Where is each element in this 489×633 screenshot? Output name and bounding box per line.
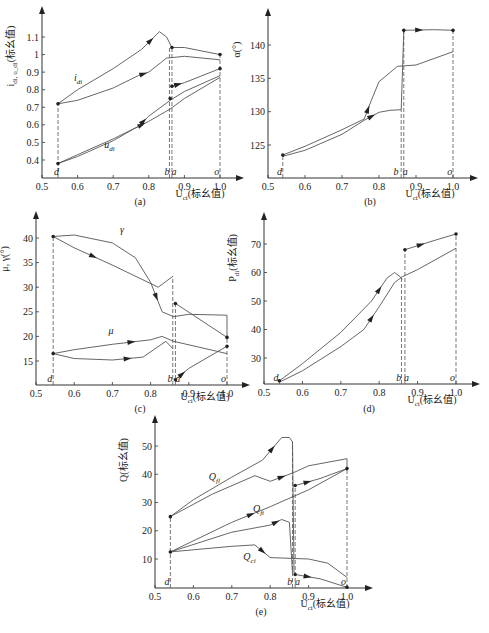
- direction-arrow-icon: [271, 518, 280, 526]
- series-line: [58, 77, 220, 163]
- x-tick-label: 0.5: [262, 181, 275, 192]
- series-line: [53, 237, 173, 288]
- x-tick-label: 0.6: [68, 388, 81, 399]
- operating-point-marker: [169, 515, 173, 519]
- series-line: [404, 30, 453, 31]
- x-tick-label: 0.8: [144, 388, 157, 399]
- y-tick-label: 20: [142, 525, 152, 536]
- x-axis-arrow-icon: [365, 585, 373, 591]
- y-tick-label: 125: [250, 140, 265, 151]
- chart-panel-d: 0.50.60.70.80.91.03040506070Pdi(标幺值)Uci(…: [226, 212, 480, 415]
- operating-point-marker: [51, 235, 55, 239]
- series-line: [279, 248, 456, 382]
- direction-arrow-icon: [415, 27, 423, 32]
- figure-canvas: 0.50.60.70.80.91.00.40.50.60.70.80.911.1…: [0, 0, 489, 633]
- point-label-a: a: [403, 166, 408, 177]
- series-line: [175, 303, 227, 337]
- y-axis-label: Q(标幺值): [117, 438, 130, 482]
- y-tick-label: 0.5: [27, 137, 40, 148]
- chart-panel-e: 0.50.60.70.80.91.01020304050Q(标幺值)Uci(标幺…: [117, 415, 373, 618]
- x-tick-label: 0.5: [30, 388, 43, 399]
- y-tick-label: 135: [250, 73, 265, 84]
- panel-caption: (e): [255, 606, 266, 618]
- operating-point-marker: [281, 153, 285, 157]
- panel-caption: (c): [134, 403, 145, 415]
- operating-point-marker: [56, 102, 60, 106]
- series-line: [175, 346, 227, 380]
- operating-point-marker: [402, 29, 406, 33]
- x-tick-label: 0.7: [336, 181, 349, 192]
- y-tick-label: 0.9: [27, 67, 40, 78]
- x-tick-label: 0.8: [264, 591, 277, 602]
- operating-point-marker: [293, 484, 297, 488]
- direction-arrow-icon: [303, 479, 312, 486]
- panel-caption: (b): [364, 196, 376, 208]
- point-label-o: o: [447, 166, 452, 177]
- x-tick-label: 0.8: [373, 387, 386, 398]
- chart-panel-c: 0.50.60.70.80.91.0152025303540μ, γ(°)Uci…: [0, 211, 250, 415]
- point-label-b: b: [164, 166, 169, 177]
- x-tick-label: 0.7: [106, 388, 119, 399]
- y-tick-label: 30: [142, 497, 152, 508]
- y-tick-label: 40: [23, 233, 33, 244]
- y-tick-label: 140: [250, 40, 265, 51]
- y-axis-arrow-icon: [152, 415, 158, 423]
- panel-caption: (d): [363, 403, 375, 415]
- x-axis-arrow-icon: [236, 175, 244, 181]
- series-line: [283, 52, 453, 155]
- y-axis-arrow-icon: [39, 6, 45, 14]
- x-tick-label: 0.6: [299, 181, 312, 192]
- series-line: [53, 336, 227, 353]
- direction-arrow-icon: [174, 81, 183, 88]
- point-label-d: d: [54, 166, 60, 177]
- chart-panel-a: 0.50.60.70.80.91.00.40.50.60.70.80.911.1…: [4, 6, 244, 208]
- y-tick-label: 40: [142, 469, 152, 480]
- y-tick-label: 10: [142, 554, 152, 565]
- series-annotation: Qci: [243, 551, 255, 565]
- operating-point-marker: [174, 302, 178, 306]
- y-tick-label: 0.6: [27, 119, 40, 130]
- operating-point-marker: [51, 352, 55, 356]
- point-label-a: a: [175, 373, 180, 384]
- point-label-a: a: [295, 576, 300, 587]
- operating-point-marker: [454, 232, 458, 236]
- direction-arrow-icon: [416, 241, 425, 248]
- y-tick-label: 15: [23, 356, 33, 367]
- operating-point-marker: [218, 67, 222, 71]
- x-tick-label: 0.7: [107, 181, 120, 192]
- x-tick-label: 0.7: [226, 591, 239, 602]
- y-tick-label: 35: [23, 257, 33, 268]
- chart-panel-b: 0.50.60.70.80.91.0125130135140α(°)Uci(标幺…: [231, 8, 478, 208]
- y-axis-label: μ, γ(°): [0, 246, 11, 271]
- x-tick-label: 0.7: [335, 387, 348, 398]
- series-annotation: Qfi: [253, 503, 264, 517]
- series-annotation: Qfl: [209, 471, 220, 485]
- y-tick-label: 50: [142, 441, 152, 452]
- point-label-o: o: [214, 166, 219, 177]
- y-tick-label: 0.8: [27, 84, 40, 95]
- direction-arrow-icon: [153, 292, 161, 301]
- y-tick-label: 0.4: [27, 155, 40, 166]
- x-tick-label: 0.6: [71, 181, 84, 192]
- y-axis-arrow-icon: [261, 212, 267, 220]
- y-tick-label: 130: [250, 106, 265, 117]
- x-tick-label: 0.5: [36, 181, 49, 192]
- operating-point-marker: [56, 162, 60, 166]
- direction-arrow-icon: [139, 70, 148, 77]
- x-axis-arrow-icon: [472, 381, 480, 387]
- y-tick-label: 20: [23, 331, 33, 342]
- point-label-o: o: [341, 576, 346, 587]
- point-label-b: b: [394, 166, 399, 177]
- series-annotation: idi: [74, 72, 82, 86]
- y-axis-label: Pdi(标幺值): [226, 234, 241, 282]
- operating-point-marker: [168, 97, 172, 101]
- y-tick-label: 0.7: [27, 102, 40, 113]
- series-line: [405, 234, 456, 250]
- operating-point-marker: [403, 248, 407, 252]
- y-tick-label: 30: [23, 282, 33, 293]
- operating-point-marker: [451, 29, 455, 33]
- x-tick-label: 0.6: [187, 591, 200, 602]
- y-axis-label: idi, u_di(标幺值): [4, 26, 19, 87]
- operating-point-marker: [169, 550, 173, 554]
- series-line: [283, 30, 404, 156]
